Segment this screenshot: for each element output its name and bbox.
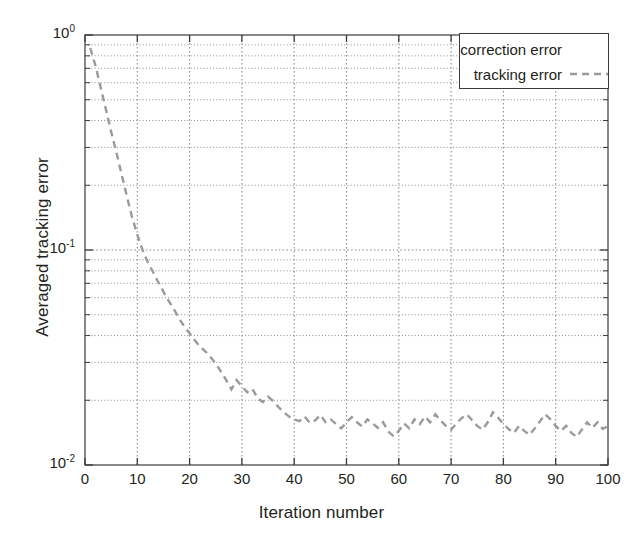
x-axis-tick-label: 60: [379, 470, 419, 487]
x-axis-tick-label: 80: [483, 470, 523, 487]
x-axis-tick-label: 50: [327, 470, 367, 487]
chart-figure: Averaged tracking error Iteration number…: [0, 0, 643, 541]
legend-label-correction-error: correction error: [460, 41, 568, 58]
legend-entry-tracking-error: tracking error: [460, 61, 610, 87]
x-axis-tick-label: 70: [431, 470, 471, 487]
legend-sample-correction-error: [568, 43, 610, 55]
x-axis-tick-label: 0: [65, 470, 105, 487]
y-axis-tick-label: 10-2: [29, 454, 75, 471]
x-axis-tick-label: 30: [222, 470, 262, 487]
x-axis-tick-label: 20: [170, 470, 210, 487]
y-axis-tick-label: 100: [29, 24, 75, 41]
legend-sample-tracking-error: [568, 68, 610, 80]
y-axis-tick-label: 10-1: [29, 239, 75, 256]
x-axis-tick-label: 10: [117, 470, 157, 487]
x-axis-tick-label: 40: [274, 470, 314, 487]
legend: correction error tracking error: [459, 33, 609, 89]
legend-entry-correction-error: correction error: [460, 36, 610, 62]
x-axis-tick-label: 90: [536, 470, 576, 487]
legend-label-tracking-error: tracking error: [474, 66, 568, 83]
x-axis-title: Iteration number: [0, 503, 643, 523]
x-axis-tick-label: 100: [588, 470, 628, 487]
